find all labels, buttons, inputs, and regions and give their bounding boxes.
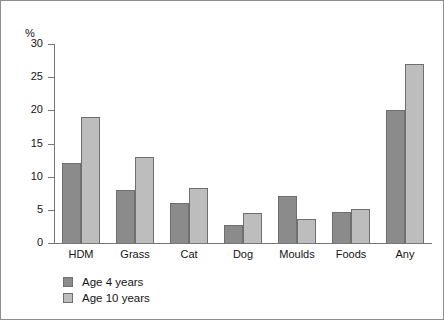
legend-item: Age 4 years [63,275,150,289]
bar [332,212,351,243]
bar [170,203,189,243]
bar [62,163,81,243]
y-axis-tick-label: 10 [9,171,43,182]
bar [278,196,297,243]
bar-group [54,44,108,243]
bar [351,209,370,243]
plot-area [54,44,432,243]
bar-group [378,44,432,243]
x-axis-line [54,243,432,244]
bar [386,110,405,243]
bar [224,225,243,243]
bar [243,213,262,243]
legend-swatch [63,277,73,287]
bar [135,157,154,243]
y-axis-tick-label: 20 [9,104,43,115]
legend-swatch [63,293,73,303]
legend-label: Age 10 years [82,292,150,304]
legend-item: Age 10 years [63,291,150,305]
bar [116,190,135,243]
y-axis-tick-label: 25 [9,71,43,82]
x-axis-tick-label: Any [365,248,444,260]
bar [297,219,316,243]
bar-group [270,44,324,243]
bar-group [162,44,216,243]
bar [405,64,424,243]
y-axis-tick-label: 0 [9,237,43,248]
bar [81,117,100,243]
bar-group [216,44,270,243]
y-axis-tick [48,243,54,244]
bar-group [108,44,162,243]
y-axis-tick-label: 5 [9,204,43,215]
y-axis-tick-label: 30 [9,38,43,49]
bar-group [324,44,378,243]
legend-label: Age 4 years [82,276,143,288]
chart-figure: % 051015202530 HDMGrassCatDogMouldsFoods… [0,0,444,320]
bar [189,188,208,243]
y-axis-tick-label: 15 [9,138,43,149]
chart-legend: Age 4 yearsAge 10 years [63,275,150,307]
